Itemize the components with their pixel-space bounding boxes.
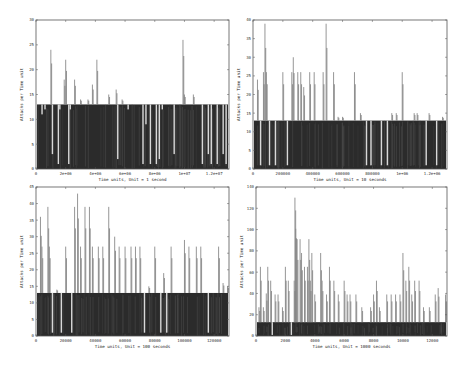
y-tick-label: 5 — [249, 148, 252, 153]
baseline-band — [37, 104, 228, 169]
x-tick-label: 2e+06 — [60, 171, 73, 176]
y-axis-label: Attacks per Time unit — [19, 68, 24, 121]
bar-gap — [202, 104, 203, 164]
x-tick-label: 400000 — [305, 171, 320, 176]
x-tick-label: 120000 — [207, 338, 222, 343]
bar-gap — [269, 121, 270, 166]
y-axis-label: Attacks per Time unit — [19, 235, 24, 288]
y-tick-label: 30 — [246, 55, 251, 60]
y-tick-label: 45 — [29, 184, 34, 189]
y-tick-label: 25 — [246, 73, 251, 78]
chart-panel-2: 02000004000006000008000001e+061.2e+06051… — [236, 17, 447, 182]
bar-gap — [208, 104, 209, 154]
bar-gap — [117, 104, 118, 159]
y-tick-label: 5 — [32, 317, 35, 322]
y-tick-label: 35 — [246, 36, 251, 41]
y-tick-label: 40 — [246, 17, 251, 22]
x-axis-label: Time units, Unit = 100 seconds — [95, 344, 171, 349]
bar-gap — [71, 293, 72, 333]
y-tick-label: 20 — [29, 67, 34, 72]
x-tick-label: 200000 — [276, 171, 291, 176]
bar-gap — [159, 104, 160, 159]
bar-gap — [52, 104, 53, 154]
x-tick-label: 1.2e+06 — [424, 171, 441, 176]
bar-gap — [145, 104, 146, 124]
x-tick-label: 100000 — [177, 338, 192, 343]
bar-gap — [225, 104, 226, 164]
bar-gap — [222, 104, 223, 154]
x-tick-label: 4000 — [310, 338, 320, 343]
y-tick-label: 140 — [247, 184, 255, 189]
x-tick-label: 8000 — [369, 338, 379, 343]
bar-gap — [426, 121, 427, 166]
y-tick-label: 120 — [247, 206, 255, 211]
baseline-band — [254, 121, 446, 169]
x-axis-label: Time units, Unit = 1000 seconds — [312, 344, 391, 349]
bar-gap — [166, 293, 167, 333]
y-tick-label: 100 — [247, 227, 255, 232]
y-tick-label: 5 — [32, 142, 35, 147]
y-tick-label: 10 — [29, 117, 34, 122]
bar-gap — [387, 121, 388, 166]
x-tick-label: 600000 — [335, 171, 350, 176]
y-tick-label: 15 — [29, 92, 34, 97]
bar-gap — [436, 121, 437, 166]
bar-gap — [381, 121, 382, 166]
bar-gap — [370, 121, 371, 166]
x-tick-label: 10000 — [397, 338, 410, 343]
y-tick-label: 40 — [249, 291, 254, 296]
bar-gap — [160, 293, 161, 333]
x-tick-label: 12000 — [426, 338, 439, 343]
bar-gap — [144, 293, 145, 333]
x-axis-label: Time units, Unit = 10 seconds — [313, 177, 387, 182]
y-tick-label: 25 — [29, 251, 34, 256]
bar-gap — [287, 121, 288, 166]
x-tick-label: 4e+06 — [89, 171, 102, 176]
y-tick-label: 40 — [29, 201, 34, 206]
bar-gap — [142, 104, 143, 164]
y-tick-label: 20 — [249, 312, 254, 317]
bar-gap — [70, 104, 71, 109]
x-tick-label: 2000 — [281, 338, 291, 343]
bar-gap — [58, 104, 59, 164]
bar-gap — [272, 322, 273, 335]
x-tick-label: 8e+06 — [149, 171, 162, 176]
y-tick-label: 20 — [246, 92, 251, 97]
x-tick-label: 1e+07 — [178, 171, 191, 176]
y-tick-label: 80 — [249, 248, 254, 253]
y-tick-label: 15 — [29, 284, 34, 289]
x-axis-label: Time units, Unit = 1 second — [98, 177, 167, 182]
x-tick-label: 0 — [255, 338, 258, 343]
y-axis-label: Attacks per Time unit — [236, 68, 241, 121]
chart-panel-4: 0200040006000800010000120000204060801001… — [239, 184, 447, 349]
x-tick-label: 1e+06 — [396, 171, 409, 176]
bar-gap — [52, 293, 53, 333]
x-tick-label: 800000 — [365, 171, 380, 176]
chart-panel-3: 0200004000060000800001000001200000510152… — [19, 184, 229, 349]
y-tick-label: 25 — [29, 42, 34, 47]
chart-panel-1: 02e+064e+066e+068e+061e+071.2e+070510152… — [19, 17, 229, 182]
y-axis-label: Attacks per Time unit — [239, 235, 244, 288]
bar-gap — [217, 104, 218, 164]
y-tick-label: 15 — [246, 111, 251, 116]
y-tick-label: 35 — [29, 218, 34, 223]
bar-gap — [291, 322, 292, 335]
bar-gap — [211, 104, 212, 164]
x-tick-label: 40000 — [89, 338, 102, 343]
plot-frame — [256, 187, 447, 336]
x-tick-label: 0 — [252, 171, 255, 176]
x-tick-label: 60000 — [119, 338, 132, 343]
bar-gap — [61, 293, 62, 333]
x-tick-label: 80000 — [149, 338, 162, 343]
x-tick-label: 6000 — [339, 338, 349, 343]
y-tick-label: 10 — [246, 129, 251, 134]
x-tick-label: 20000 — [60, 338, 73, 343]
x-tick-label: 0 — [35, 338, 38, 343]
y-tick-label: 10 — [29, 300, 34, 305]
x-tick-label: 6e+06 — [119, 171, 132, 176]
bar-gap — [208, 293, 209, 333]
bar-gap — [44, 104, 45, 109]
x-tick-label: 1.2e+07 — [206, 171, 223, 176]
x-tick-label: 0 — [35, 171, 38, 176]
bar-gap — [260, 121, 261, 166]
